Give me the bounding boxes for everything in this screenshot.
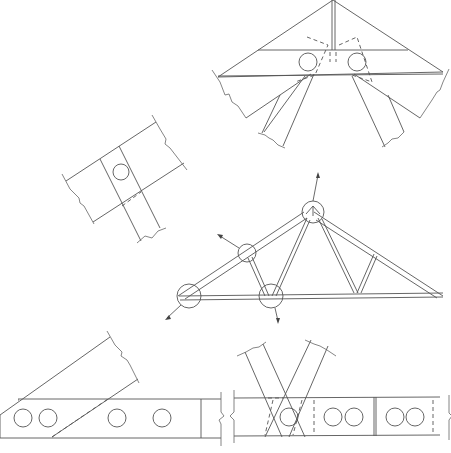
web-joint-callout [238, 244, 256, 262]
bolt-icon [14, 409, 32, 427]
arrow-icon [220, 236, 239, 248]
splice-joint-detail [230, 340, 451, 443]
peak-joint-detail [212, 0, 449, 148]
bolt-icon [153, 409, 171, 427]
bolt-icon [348, 53, 366, 71]
bolt-icon [406, 408, 424, 426]
bolt-icon [386, 408, 404, 426]
heel-joint-detail [0, 331, 224, 446]
arrow-icon [313, 175, 318, 201]
bolt-icon [345, 408, 363, 426]
bolt-icon [108, 409, 126, 427]
bolt-icon [280, 408, 298, 426]
bolt-icon [113, 164, 129, 180]
splice-joint-callout [259, 284, 283, 308]
web-joint-detail [62, 115, 187, 243]
bolt-icon [39, 409, 57, 427]
truss-drawing [0, 0, 451, 453]
bolt-icon [299, 53, 317, 71]
bolt-icon [324, 408, 342, 426]
main-truss [165, 172, 443, 324]
